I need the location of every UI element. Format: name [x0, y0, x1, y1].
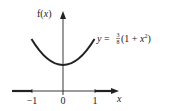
- eq-body-a: (1 +: [121, 33, 140, 45]
- eq-body-b: ): [147, 33, 150, 45]
- y-axis-label: f(x): [37, 8, 51, 20]
- tick-label-neg1: −1: [27, 95, 38, 106]
- svg-text:y =: y =: [96, 33, 110, 44]
- eq-fraction-den: 8: [117, 39, 120, 45]
- eq-equals: =: [101, 33, 110, 44]
- y-axis-arrow-icon: [60, 11, 66, 19]
- equation-annotation: y = 3 8 (1 + x2): [96, 32, 151, 45]
- tick-label-0: 0: [61, 95, 66, 106]
- eq-fraction-num: 3: [117, 32, 120, 38]
- tick-label-1: 1: [93, 95, 98, 106]
- function-plot: −1 0 1 x f(x) y = 3 8 (1 + x2): [0, 0, 174, 111]
- svg-text:(1 + x2): (1 + x2): [121, 33, 151, 45]
- y-axis-label-close: ): [48, 8, 51, 20]
- x-axis-label: x: [116, 93, 122, 104]
